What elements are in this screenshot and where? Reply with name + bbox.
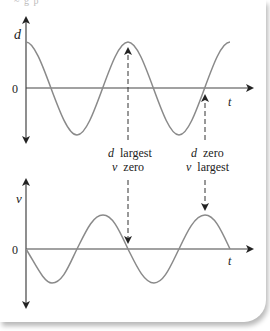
- velocity-graph: v 0 t: [12, 180, 252, 307]
- v-axis-label: v: [16, 191, 22, 206]
- d-t-label: t: [228, 95, 232, 109]
- d-axis-label: d: [14, 27, 22, 42]
- displacement-graph: d 0 t: [12, 18, 252, 142]
- annotation-2-line2: v largest: [186, 160, 230, 174]
- annotation-2-line1: d zero: [191, 146, 224, 160]
- annotation-1-line1: d largest: [108, 146, 152, 160]
- annotation-2: d zero v largest: [186, 96, 230, 209]
- annotation-1: d largest v zero: [108, 49, 152, 242]
- v-zero-label: 0: [12, 243, 18, 257]
- d-zero-label: 0: [12, 82, 18, 96]
- annotation-1-line2: v zero: [112, 160, 144, 174]
- displacement-velocity-diagram: d 0 t v 0 t d largest v zero d zero: [0, 0, 270, 331]
- v-t-label: t: [228, 254, 232, 268]
